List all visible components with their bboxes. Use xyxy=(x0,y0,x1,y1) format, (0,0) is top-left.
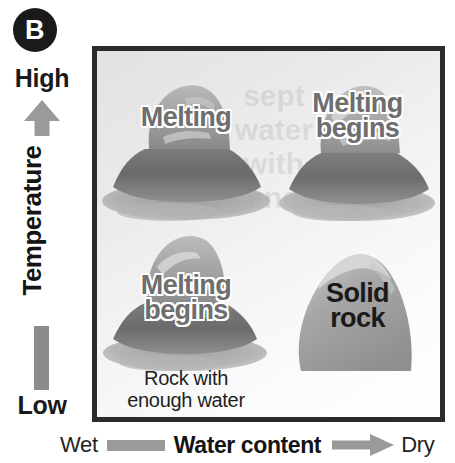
panel-letter-badge: B xyxy=(13,8,57,52)
y-axis-title: Temperature xyxy=(17,126,48,316)
y-axis-bar xyxy=(34,326,49,390)
quadrant-caption-bottom-left: Rock with enough water xyxy=(97,367,275,411)
arrow-right-icon xyxy=(332,434,394,456)
x-axis: Wet Water content Dry xyxy=(60,428,455,462)
quadrant-top-left: Melting xyxy=(97,51,275,233)
quadrant-top-right: Melting begins xyxy=(275,51,440,233)
rock-solid-icon xyxy=(275,233,440,417)
x-axis-title: Water content xyxy=(174,432,321,459)
y-axis-high-label: High xyxy=(0,64,84,93)
quadrant-bottom-left: Melting begins Rock with enough water xyxy=(97,233,275,417)
figure-panel-b: B High Temperature Low septwaterwithend xyxy=(0,0,455,463)
y-axis: High Temperature Low xyxy=(0,60,88,425)
quadrant-caption-line2: enough water xyxy=(127,389,245,411)
rock-fully-melted-icon xyxy=(97,51,275,233)
y-axis-low-label: Low xyxy=(0,391,84,420)
x-axis-left-label: Wet xyxy=(60,432,98,458)
quadrant-caption-line1: Rock with xyxy=(144,367,228,389)
x-axis-right-label: Dry xyxy=(401,432,434,458)
plot-panel: septwaterwithend xyxy=(92,46,445,422)
x-axis-bar xyxy=(107,440,165,451)
quadrant-bottom-right: Solid rock xyxy=(275,233,440,417)
rock-partially-melted-icon xyxy=(275,51,440,233)
